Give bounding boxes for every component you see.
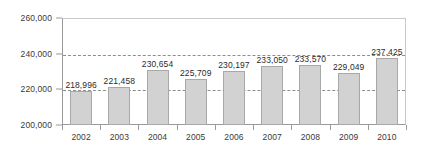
bar-value-label: 218,996 [65, 80, 96, 90]
y-axis: 200,000220,000240,000260,000 [0, 0, 62, 160]
bar-slot: 230,197 [215, 18, 253, 125]
x-axis-tick-mark [330, 125, 331, 130]
bar-slot: 225,709 [177, 18, 215, 125]
x-axis-tick-label: 2009 [339, 132, 358, 142]
bar-value-label: 230,654 [142, 59, 173, 69]
bar-value-label: 233,570 [295, 54, 326, 64]
bar[interactable] [185, 79, 207, 125]
bar[interactable] [70, 91, 92, 125]
x-axis: 200220032004200520062007200820092010 [62, 125, 406, 155]
x-axis-tick-mark [291, 125, 292, 130]
bar-slot: 233,570 [291, 18, 329, 125]
x-axis-tick-mark [215, 125, 216, 130]
x-axis-tick-label: 2003 [110, 132, 129, 142]
bar-chart: 200,000220,000240,000260,000 218,996221,… [0, 0, 427, 160]
x-axis-tick-label: 2008 [301, 132, 320, 142]
bar-value-label: 225,709 [180, 68, 211, 78]
bar-slot: 221,458 [100, 18, 138, 125]
x-axis-tick-label: 2002 [71, 132, 90, 142]
bar-slot: 218,996 [62, 18, 100, 125]
bar-value-label: 221,458 [104, 76, 135, 86]
y-axis-tick-label: 240,000 [21, 49, 52, 59]
bars-layer: 218,996221,458230,654225,709230,197233,0… [62, 18, 406, 125]
x-axis-tick-mark [253, 125, 254, 130]
bar-value-label: 237,425 [371, 47, 402, 57]
x-axis-tick-label: 2005 [186, 132, 205, 142]
y-axis-tick-label: 220,000 [21, 84, 52, 94]
bar-value-label: 229,049 [333, 62, 364, 72]
bar-slot: 229,049 [330, 18, 368, 125]
bar[interactable] [147, 70, 169, 125]
bar-slot: 237,425 [368, 18, 406, 125]
x-axis-tick-label: 2007 [263, 132, 282, 142]
x-axis-tick-mark [177, 125, 178, 130]
x-axis-tick-mark [100, 125, 101, 130]
bar-slot: 230,654 [138, 18, 176, 125]
bar[interactable] [261, 66, 283, 125]
bar-slot: 233,050 [253, 18, 291, 125]
x-axis-tick-mark [62, 125, 63, 130]
bar[interactable] [338, 73, 360, 125]
x-axis-tick-label: 2004 [148, 132, 167, 142]
bar-value-label: 230,197 [218, 60, 249, 70]
x-axis-tick-label: 2010 [377, 132, 396, 142]
x-axis-tick-mark [138, 125, 139, 130]
y-axis-tick-label: 260,000 [21, 13, 52, 23]
bar[interactable] [376, 58, 398, 125]
bar[interactable] [223, 71, 245, 125]
x-axis-tick-mark [368, 125, 369, 130]
y-axis-tick-label: 200,000 [21, 120, 52, 130]
x-axis-tick-mark [406, 125, 407, 130]
bar-value-label: 233,050 [257, 55, 288, 65]
bar[interactable] [299, 65, 321, 125]
bar[interactable] [108, 87, 130, 125]
x-axis-tick-label: 2006 [224, 132, 243, 142]
